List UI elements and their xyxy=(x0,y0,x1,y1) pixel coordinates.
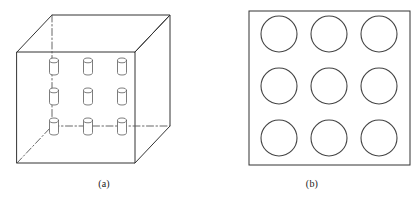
panel-b-drawing xyxy=(208,0,416,175)
box-top-face-edges xyxy=(17,15,170,52)
cylinder xyxy=(50,58,59,75)
panel-a-caption: (a) xyxy=(0,178,208,189)
circle xyxy=(261,16,297,52)
circle xyxy=(361,68,397,104)
circle-array xyxy=(261,16,397,156)
circle xyxy=(261,120,297,156)
circle xyxy=(311,16,347,52)
circle xyxy=(361,16,397,52)
cylinder xyxy=(84,58,93,75)
cylinder xyxy=(118,118,127,135)
cylinder xyxy=(118,88,127,105)
panel-b: (b) xyxy=(208,0,416,199)
circle xyxy=(311,120,347,156)
panel-b-caption: (b) xyxy=(208,178,416,189)
cylinder xyxy=(118,58,127,75)
figure-root: (a) xyxy=(0,0,416,199)
panel-a-drawing xyxy=(0,0,208,175)
box-right-face-edges xyxy=(135,15,170,163)
circle xyxy=(361,120,397,156)
cylinder xyxy=(50,88,59,105)
circle xyxy=(311,68,347,104)
cylinder xyxy=(84,88,93,105)
cylinder xyxy=(84,118,93,135)
cylinder xyxy=(50,118,59,135)
circle xyxy=(261,68,297,104)
panel-a: (a) xyxy=(0,0,208,199)
